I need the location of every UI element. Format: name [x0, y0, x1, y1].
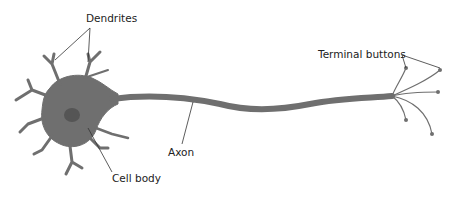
dendrites-leader	[55, 28, 90, 62]
dendrite	[90, 138, 108, 148]
terminal-buttons-leader	[402, 55, 440, 68]
axon-shape	[112, 96, 392, 109]
dendrite	[66, 146, 82, 174]
terminal-button	[436, 90, 440, 94]
neuron-diagram: Dendrites Terminal buttons Axon Cell bod…	[0, 0, 466, 200]
terminal-button	[430, 132, 434, 136]
terminal-branch	[392, 68, 406, 96]
neuron-illustration	[0, 0, 466, 200]
nucleus	[64, 108, 80, 122]
terminal-button	[438, 68, 442, 72]
axon-leader	[182, 102, 193, 144]
terminal-button	[404, 118, 408, 122]
axon-label: Axon	[168, 146, 194, 158]
dendrite	[34, 136, 52, 154]
cell-body-leader	[88, 128, 112, 172]
dendrite	[44, 54, 60, 84]
dendrite	[16, 80, 48, 100]
terminal-buttons-label: Terminal buttons	[318, 48, 406, 60]
dendrite	[20, 118, 44, 132]
dendrites-label: Dendrites	[86, 12, 137, 24]
cell-body-label: Cell body	[112, 172, 161, 184]
dendrite	[96, 128, 128, 138]
